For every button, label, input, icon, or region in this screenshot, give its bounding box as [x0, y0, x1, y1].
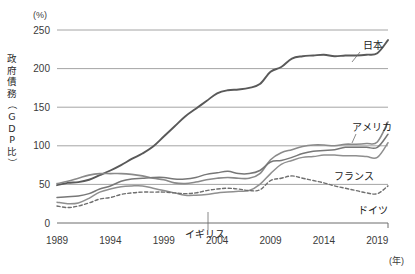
x-tick-label: 1994: [99, 235, 122, 246]
y-axis-tick-labels: 050100150200250: [33, 25, 50, 229]
y-tick-label: 0: [44, 218, 50, 229]
y-axis-unit: (%): [33, 10, 47, 20]
data-series-group: [57, 40, 388, 208]
y-axis-title-char: 務: [7, 88, 17, 99]
leader-lines-group: [208, 52, 360, 230]
x-tick-label: 2014: [313, 235, 336, 246]
x-tick-label: 1999: [153, 235, 176, 246]
leader-line-usa: [352, 134, 356, 143]
y-axis-title-char: 政: [7, 53, 17, 64]
y-axis-title-char: D: [8, 123, 15, 134]
series-label-イギリス: イギリス: [185, 229, 225, 240]
y-axis-title-char: 府: [7, 65, 17, 76]
series-label-フランス: フランス: [334, 171, 374, 182]
series-label-日本: 日本: [363, 39, 383, 51]
y-axis-title-char: （: [7, 100, 18, 110]
x-tick-label: 1989: [46, 235, 69, 246]
series-label-ドイツ: ドイツ: [358, 205, 388, 216]
leader-line-japan: [352, 52, 360, 62]
y-axis-title-char: 債: [7, 76, 17, 87]
y-tick-label: 200: [33, 63, 50, 74]
series-line: [57, 40, 388, 185]
x-tick-label: 2009: [259, 235, 282, 246]
series-label-アメリカ: アメリカ: [352, 122, 392, 133]
x-axis-unit: (年): [389, 255, 404, 266]
y-tick-label: 150: [33, 102, 50, 113]
line-chart: 050100150200250 198919941999200420092014…: [0, 0, 415, 274]
series-labels-group: 日本アメリカフランスイギリスドイツ: [185, 39, 392, 240]
x-tick-label: 2019: [366, 235, 389, 246]
y-tick-label: 250: [33, 25, 50, 36]
y-tick-label: 50: [39, 179, 51, 190]
y-axis-title: 政府債務（GDP比）: [7, 53, 18, 168]
y-axis-title-char: P: [9, 134, 15, 145]
y-tick-label: 100: [33, 140, 50, 151]
y-axis-title-char: G: [8, 111, 15, 122]
y-axis-title-char: ）: [7, 158, 18, 168]
y-axis-title-char: 比: [7, 146, 17, 157]
chart-container: 050100150200250 198919941999200420092014…: [0, 0, 415, 274]
